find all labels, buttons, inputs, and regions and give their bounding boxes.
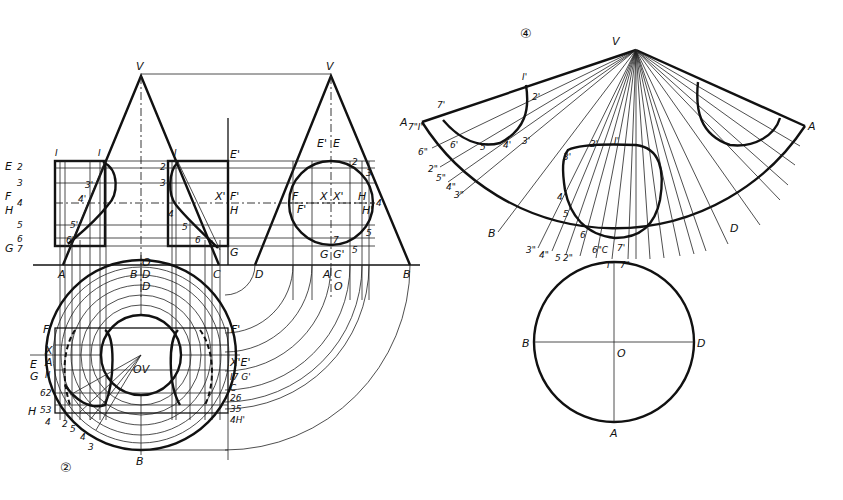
svg-text:F: F: [5, 190, 12, 203]
plan-view: [30, 255, 240, 460]
svg-text:5: 5: [17, 220, 23, 230]
svg-text:6': 6': [66, 235, 74, 245]
svg-text:5": 5": [436, 173, 446, 183]
svg-text:I": I": [607, 260, 614, 270]
svg-text:II: II: [45, 370, 51, 380]
svg-text:G: G: [320, 248, 329, 261]
svg-text:X': X': [332, 190, 344, 203]
svg-text:E': E': [317, 137, 327, 150]
svg-text:H: H: [28, 405, 36, 418]
svg-text:3: 3: [366, 168, 372, 178]
svg-text:5': 5': [70, 220, 78, 230]
svg-text:4: 4: [168, 209, 174, 219]
svg-text:7': 7': [617, 243, 625, 253]
svg-text:7: 7: [333, 235, 339, 245]
svg-text:3: 3: [17, 178, 23, 188]
svg-text:4": 4": [539, 250, 549, 260]
svg-text:2: 2: [17, 162, 23, 172]
svg-text:6"C: 6"C: [592, 245, 609, 255]
svg-text:H: H: [358, 190, 366, 203]
svg-text:C: C: [230, 383, 237, 393]
svg-text:3: 3: [88, 442, 94, 452]
svg-text:D: D: [697, 337, 705, 350]
svg-text:5: 5: [563, 209, 569, 219]
svg-text:F: F: [43, 323, 50, 336]
svg-text:4': 4': [503, 140, 511, 150]
svg-text:E: E: [333, 137, 340, 150]
svg-text:V: V: [136, 60, 145, 73]
svg-text:A: A: [322, 268, 331, 281]
svg-text:D: D: [142, 280, 150, 293]
svg-text:4H': 4H': [230, 415, 245, 425]
svg-text:H: H: [5, 204, 13, 217]
svg-text:5: 5: [182, 222, 188, 232]
svg-text:A: A: [44, 356, 53, 369]
svg-text:6: 6: [17, 234, 23, 244]
svg-text:A: A: [399, 116, 408, 129]
svg-text:G: G: [30, 370, 39, 383]
svg-text:A: A: [609, 427, 618, 440]
svg-text:D: D: [730, 222, 738, 235]
svg-text:②: ②: [60, 460, 72, 475]
svg-text:F: F: [292, 190, 299, 203]
svg-text:2": 2": [563, 253, 573, 263]
svg-text:C: C: [213, 268, 221, 281]
svg-text:E: E: [5, 160, 12, 173]
svg-text:F': F': [230, 190, 239, 203]
svg-text:35: 35: [230, 404, 242, 414]
svg-text:4': 4': [78, 194, 86, 204]
inner-intersection-curve: [563, 145, 662, 238]
svg-text:5': 5': [480, 142, 488, 152]
svg-text:I7 G': I7 G': [230, 372, 251, 382]
svg-text:B: B: [136, 455, 144, 468]
svg-text:6: 6: [580, 230, 586, 240]
svg-text:3': 3': [85, 180, 93, 190]
svg-text:3": 3": [526, 245, 536, 255]
svg-text:H: H: [230, 204, 238, 217]
svg-text:7: 7: [17, 244, 23, 254]
svg-text:2': 2': [532, 92, 540, 102]
svg-text:I: I: [98, 148, 101, 158]
svg-text:B: B: [403, 268, 411, 281]
svg-text:B: B: [488, 227, 496, 240]
svg-text:3: 3: [160, 178, 166, 188]
svg-text:6": 6": [418, 147, 428, 157]
svg-text:G: G: [230, 246, 239, 259]
svg-text:2: 2: [352, 157, 358, 167]
svg-text:5: 5: [555, 253, 561, 263]
svg-text:7": 7": [620, 260, 630, 270]
svg-text:2: 2: [62, 419, 68, 429]
svg-text:O: O: [334, 280, 343, 293]
svg-text:4: 4: [376, 198, 382, 208]
svg-text:G: G: [5, 242, 14, 255]
svg-text:7"I": 7"I": [408, 122, 425, 132]
svg-text:④: ④: [520, 26, 532, 41]
svg-text:6': 6': [450, 140, 458, 150]
svg-text:3': 3': [522, 136, 530, 146]
svg-text:I: I: [174, 148, 177, 158]
svg-text:F': F': [231, 323, 240, 336]
svg-text:A: A: [807, 120, 816, 133]
technical-drawing: V V E 2 3 F 4 H 5 6 G 7 I I 3' 4' 5' 6' …: [0, 0, 843, 500]
svg-text:5: 5: [70, 424, 76, 434]
svg-text:B: B: [522, 337, 530, 350]
svg-text:I': I': [614, 136, 619, 146]
svg-text:OV: OV: [133, 363, 151, 376]
svg-text:2: 2: [160, 162, 166, 172]
svg-text:I': I': [522, 72, 527, 82]
svg-text:5: 5: [352, 245, 358, 255]
svg-text:I: I: [55, 148, 58, 158]
svg-text:6: 6: [195, 235, 201, 245]
svg-text:O: O: [617, 347, 626, 360]
svg-text:53: 53: [40, 405, 52, 415]
svg-text:4: 4: [557, 192, 563, 202]
svg-text:B: B: [130, 268, 138, 281]
svg-text:5: 5: [366, 228, 372, 238]
svg-text:X: X: [319, 190, 328, 203]
labels: V V E 2 3 F 4 H 5 6 G 7 I I 3' 4' 5' 6' …: [5, 26, 816, 475]
svg-text:X': X': [214, 190, 226, 203]
svg-text:A: A: [57, 268, 66, 281]
svg-text:3": 3": [454, 190, 464, 200]
svg-text:V: V: [326, 60, 335, 73]
svg-text:62: 62: [40, 388, 52, 398]
